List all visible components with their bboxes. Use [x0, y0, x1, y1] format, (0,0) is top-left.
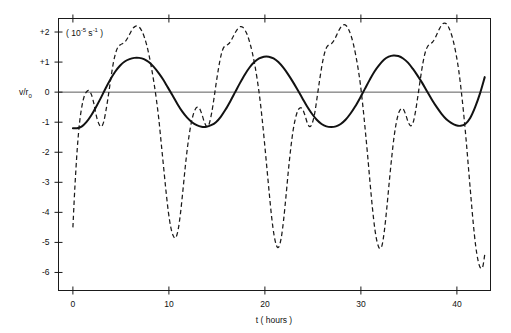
x-tick-label: 0 [71, 299, 76, 309]
x-tick-label: 20 [260, 299, 270, 309]
x-axis-title: t ( hours ) [256, 315, 293, 325]
y-tick-label: 0 [45, 87, 50, 97]
figure-container: +2+10-1-2-3-4-5-6 010203040 ( 10-5 s-1 )… [0, 0, 511, 333]
y-tick-label: -2 [42, 147, 50, 157]
y-tick-label: +2 [40, 27, 50, 37]
y-tick-label: -5 [42, 237, 50, 247]
y-axis-tick-labels: +2+10-1-2-3-4-5-6 [40, 27, 50, 277]
y-tick-label: -1 [42, 117, 50, 127]
x-tick-label: 40 [452, 299, 462, 309]
line-chart: +2+10-1-2-3-4-5-6 010203040 ( 10-5 s-1 )… [0, 0, 511, 333]
y-tick-label: -3 [42, 177, 50, 187]
y-tick-label: +1 [40, 57, 50, 67]
x-tick-label: 30 [356, 299, 366, 309]
y-tick-label: -6 [42, 267, 50, 277]
x-tick-label: 10 [164, 299, 174, 309]
y-tick-label: -4 [42, 207, 50, 217]
